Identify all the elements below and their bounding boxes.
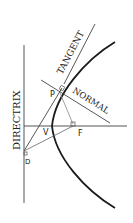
point-d-label: D [25,158,30,166]
pf-segment [60,93,73,124]
vertex-label: V [43,128,49,137]
point-p-label: P [50,90,55,99]
directrix-label: DIRECTRIX [11,89,22,150]
focus-label: F [78,129,83,138]
parabola-diagram: DIRECTRIX TANGENT NORMAL P V F D [0,0,133,223]
